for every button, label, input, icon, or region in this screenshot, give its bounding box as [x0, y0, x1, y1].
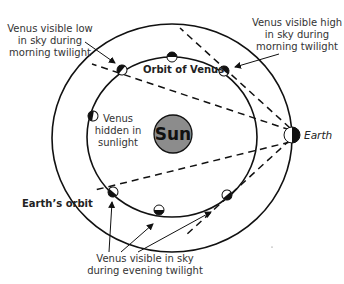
sun-label: Sun: [155, 124, 191, 144]
earth-orbit-label: Earth’s orbit: [22, 198, 93, 209]
svg-text:morning twilight: morning twilight: [9, 47, 91, 58]
venus-lower-left: [106, 185, 120, 199]
annotation-morning-low: Venus visible low in sky during morning …: [7, 23, 115, 63]
svg-text:Venus visible low: Venus visible low: [7, 23, 93, 34]
speck: [271, 246, 272, 247]
venus-bottom: [154, 205, 164, 215]
svg-text:Venus visible in sky: Venus visible in sky: [96, 253, 193, 264]
svg-text:morning twilight: morning twilight: [256, 41, 338, 52]
venus-orbit-label: Orbit of Venus: [143, 64, 224, 75]
annotation-morning-high: Venus visible high in sky during morning…: [235, 17, 342, 67]
svg-text:Venus: Venus: [103, 113, 133, 124]
earth: [284, 127, 300, 143]
venus-top: [167, 52, 177, 62]
svg-text:in sky during: in sky during: [18, 35, 82, 46]
sun: Sun: [154, 115, 192, 153]
annotation-evening: Venus visible in sky during evening twil…: [87, 202, 211, 276]
earth-label: Earth: [304, 129, 332, 141]
annotation-hidden: Venus hidden in sunlight: [95, 113, 142, 148]
svg-text:during evening twilight: during evening twilight: [87, 265, 203, 276]
venus-lower-right: [220, 188, 234, 202]
svg-text:Venus visible high: Venus visible high: [252, 17, 342, 28]
venus-orbit-diagram: Sun Earth Orbit of Venus Earth’s orbit V: [0, 0, 344, 284]
svg-text:in sky during: in sky during: [265, 29, 329, 40]
svg-text:hidden in: hidden in: [95, 125, 142, 136]
svg-text:sunlight: sunlight: [98, 137, 138, 148]
